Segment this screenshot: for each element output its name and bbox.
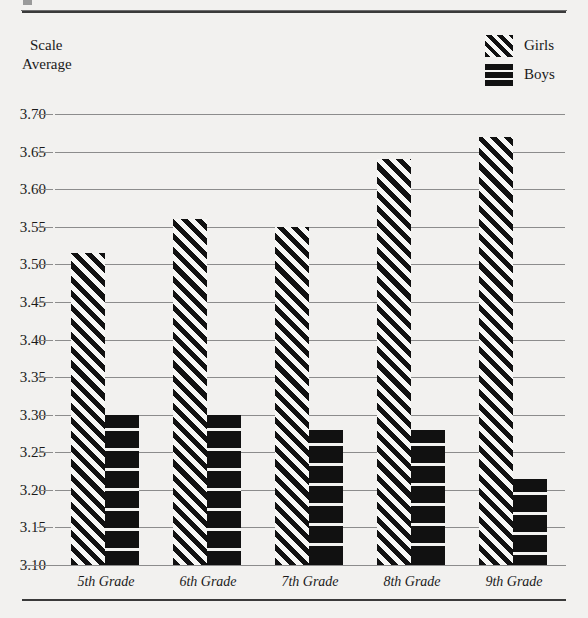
chart-legend: Girls Boys: [485, 33, 555, 91]
bottom-divider-rule: [22, 599, 566, 601]
bar-group: [71, 114, 139, 565]
bar-boys-6th-grade: [207, 415, 241, 565]
bar-group: [173, 114, 241, 565]
legend-item-girls: Girls: [485, 33, 555, 58]
bar-girls-5th-grade: [71, 253, 105, 565]
y-axis-title: Scale Average: [22, 36, 112, 74]
legend-swatch-girls-icon: [485, 35, 513, 57]
x-axis-label: 9th Grade: [454, 574, 574, 590]
y-axis-tick-mark: [37, 415, 53, 416]
y-axis-title-line1: Scale: [22, 36, 112, 55]
bar-girls-9th-grade: [479, 137, 513, 565]
y-axis-tick-mark: [37, 377, 53, 378]
y-axis-tick-mark: [37, 114, 53, 115]
bar-group: [275, 114, 343, 565]
y-axis-tick-mark: [37, 452, 53, 453]
x-axis-labels: 5th Grade6th Grade7th Grade8th Grade9th …: [55, 574, 565, 598]
bar-girls-6th-grade: [173, 219, 207, 565]
plot-area: 3.703.653.603.553.503.453.403.353.303.25…: [55, 114, 565, 565]
y-axis-tick-mark: [37, 527, 53, 528]
y-axis-tick-mark: [37, 340, 53, 341]
axis-baseline: [22, 565, 566, 566]
crop-mark: [23, 0, 32, 5]
top-divider-rule: [22, 11, 566, 13]
bar-girls-8th-grade: [377, 159, 411, 565]
y-axis-tick-mark: [37, 189, 53, 190]
bar-group: [479, 114, 547, 565]
bar-girls-7th-grade: [275, 227, 309, 565]
bar-group: [377, 114, 445, 565]
y-axis-tick-mark: [37, 490, 53, 491]
bar-boys-8th-grade: [411, 430, 445, 565]
bar-boys-7th-grade: [309, 430, 343, 565]
y-axis-tick-mark: [37, 227, 53, 228]
y-axis-tick-mark: [37, 152, 53, 153]
y-axis-title-line2: Average: [22, 55, 112, 74]
bar-boys-5th-grade: [105, 415, 139, 565]
y-axis-tick-mark: [37, 302, 53, 303]
legend-item-boys: Boys: [485, 62, 555, 87]
bar-boys-9th-grade: [513, 479, 547, 565]
y-axis-tick-mark: [37, 264, 53, 265]
bars-layer: [55, 114, 565, 565]
legend-label-boys: Boys: [524, 66, 555, 83]
legend-label-girls: Girls: [524, 37, 554, 54]
legend-swatch-boys-icon: [485, 64, 513, 86]
